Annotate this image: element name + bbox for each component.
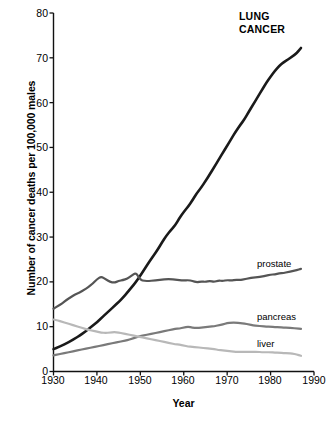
axes	[53, 13, 314, 372]
series-line-prostate	[54, 269, 301, 309]
tick-marks	[50, 13, 315, 376]
series-line-lung-cancer	[54, 48, 301, 349]
cancer-mortality-chart: Number of cancer deaths per 100,000 male…	[0, 0, 335, 422]
series-line-liver	[54, 320, 301, 356]
series-paths	[54, 48, 301, 356]
plot-area	[0, 0, 335, 422]
